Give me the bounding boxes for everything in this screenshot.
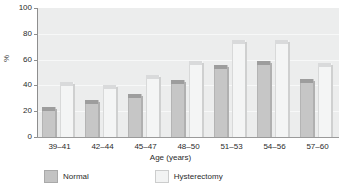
y-tickmark-80: [34, 34, 37, 35]
x-axis-line: [37, 137, 339, 138]
bar-groups: [38, 8, 339, 137]
bar-normal-42–44[interactable]: [85, 100, 100, 137]
bar-side: [55, 109, 57, 137]
bar-side: [270, 63, 272, 137]
bar-group: [257, 8, 293, 137]
bar-face: [42, 107, 56, 137]
bar-side: [331, 65, 333, 137]
x-tick-54–56: 54–56: [253, 142, 297, 151]
bar-side: [159, 77, 161, 137]
bar-group: [128, 8, 164, 137]
bar-side: [227, 67, 229, 137]
bar-hysterectomy-54–56[interactable]: [275, 40, 290, 137]
legend-label-normal: Normal: [63, 172, 89, 181]
bar-normal-45–47[interactable]: [128, 94, 143, 137]
y-tick-20: 20: [10, 107, 32, 115]
bar-face: [318, 63, 332, 137]
bar-hysterectomy-42–44[interactable]: [103, 85, 118, 137]
bar-face: [146, 75, 160, 137]
bar-cap: [103, 85, 116, 89]
bar-cap: [128, 94, 141, 98]
bar-face: [300, 79, 314, 137]
y-tick-60: 60: [10, 56, 32, 64]
bar-group: [42, 8, 78, 137]
bar-side: [202, 63, 204, 137]
bar-normal-51–53[interactable]: [214, 65, 229, 137]
bar-group: [171, 8, 207, 137]
bar-normal-54–56[interactable]: [257, 61, 272, 137]
bar-group: [214, 8, 250, 137]
x-tick-45–47: 45–47: [124, 142, 168, 151]
y-tickmark-60: [34, 60, 37, 61]
bar-cap: [85, 100, 98, 104]
x-axis-label: Age (years): [0, 153, 341, 162]
bar-normal-39–41[interactable]: [42, 107, 57, 137]
bar-cap: [257, 61, 270, 65]
plot-area: [38, 8, 339, 137]
bar-cap: [214, 65, 227, 69]
bar-cap: [318, 63, 331, 67]
bar-normal-57–60[interactable]: [300, 79, 315, 137]
bar-cap: [189, 61, 202, 65]
legend-item-normal[interactable]: Normal: [44, 170, 89, 183]
bar-hysterectomy-45–47[interactable]: [146, 75, 161, 137]
bar-face: [85, 100, 99, 137]
x-tick-39–41: 39–41: [38, 142, 82, 151]
legend-label-hysterectomy: Hysterectomy: [174, 172, 223, 181]
bar-hysterectomy-48–50[interactable]: [189, 61, 204, 137]
bar-side: [116, 87, 118, 137]
x-tick-51–53: 51–53: [210, 142, 254, 151]
bar-face: [189, 61, 203, 137]
bar-face: [103, 85, 117, 137]
bar-cap: [300, 79, 313, 83]
y-tickmark-100: [34, 8, 37, 9]
bar-side: [184, 82, 186, 137]
bar-side: [245, 42, 247, 137]
bar-side: [98, 102, 100, 137]
bar-normal-48–50[interactable]: [171, 80, 186, 137]
bar-cap: [275, 40, 288, 44]
bar-cap: [60, 82, 73, 86]
bar-face: [275, 40, 289, 137]
x-tick-42–44: 42–44: [81, 142, 125, 151]
bar-cap: [42, 107, 55, 111]
y-tickmark-0: [34, 137, 37, 138]
bar-side: [141, 96, 143, 137]
x-tick-48–50: 48–50: [167, 142, 211, 151]
bar-group: [85, 8, 121, 137]
bar-face: [128, 94, 142, 137]
bar-face: [60, 82, 74, 137]
bar-face: [171, 80, 185, 137]
bar-cap: [171, 80, 184, 84]
y-tick-40: 40: [10, 81, 32, 89]
x-tick-57–60: 57–60: [296, 142, 340, 151]
y-tick-0: 0: [10, 133, 32, 141]
y-tickmark-40: [34, 85, 37, 86]
bar-face: [232, 40, 246, 137]
bar-hysterectomy-39–41[interactable]: [60, 82, 75, 137]
y-tick-100: 100: [10, 4, 32, 12]
bar-hysterectomy-57–60[interactable]: [318, 63, 333, 137]
bar-side: [73, 84, 75, 137]
bar-cap: [232, 40, 245, 44]
bar-face: [214, 65, 228, 137]
bar-chart: % 020406080100 39–4142–4445–4748–5051–53…: [0, 0, 341, 195]
bar-face: [257, 61, 271, 137]
bar-hysterectomy-51–53[interactable]: [232, 40, 247, 137]
legend: Normal Hysterectomy: [44, 170, 223, 183]
legend-swatch-hysterectomy-icon: [155, 170, 169, 183]
bar-cap: [146, 75, 159, 79]
bar-group: [300, 8, 336, 137]
bar-side: [288, 42, 290, 137]
y-tick-80: 80: [10, 30, 32, 38]
y-tickmark-20: [34, 111, 37, 112]
legend-item-hysterectomy[interactable]: Hysterectomy: [155, 170, 223, 183]
legend-swatch-normal-icon: [44, 170, 58, 183]
bar-side: [313, 81, 315, 137]
